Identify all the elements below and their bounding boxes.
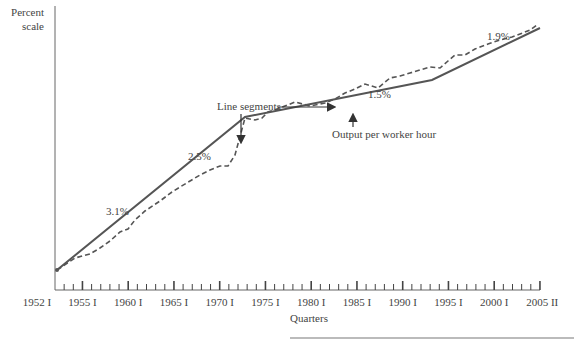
x-tick-label: 2005 II [526,296,558,308]
start-point [55,268,59,272]
x-axis-ticks [64,281,540,290]
output-per-worker-hour-line [57,25,537,270]
x-tick-label: 1955 I [68,296,96,308]
x-tick-label: 1975 I [251,296,279,308]
line-segments-label: Line segments [217,100,281,112]
growth-label-4: 1.9% [487,30,510,42]
chart-plot [0,0,574,340]
x-tick-label: 1995 I [434,296,462,308]
x-axis-label: Quarters [290,312,328,324]
x-tick-label: 1960 I [114,296,142,308]
x-tick-label: 2000 I [480,296,508,308]
output-per-worker-hour-label: Output per worker hour [332,128,436,140]
line-segments [57,28,540,270]
bottom-rule [290,337,574,339]
growth-label-2: 2.5% [188,150,211,162]
x-tick-label: 1985 I [343,296,371,308]
growth-label-1: 3.1% [106,205,129,217]
x-tick-label: 1952 I [23,296,51,308]
x-tick-label: 1980 I [297,296,325,308]
growth-label-3: 1.5% [368,88,391,100]
x-tick-label: 1965 I [160,296,188,308]
x-tick-label: 1970 I [205,296,233,308]
x-tick-label: 1990 I [388,296,416,308]
